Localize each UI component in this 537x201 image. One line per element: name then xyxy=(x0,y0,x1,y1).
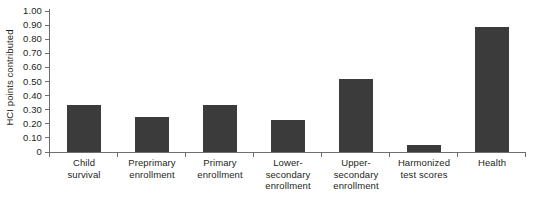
x-axis-category-label: Primaryenrollment xyxy=(186,157,254,180)
x-axis-category-label-line: Child xyxy=(50,157,118,169)
x-axis-category-label-line: Harmonized xyxy=(390,157,458,169)
y-axis-tick-label: 0.10 xyxy=(23,132,42,144)
x-axis-category-label-line: enrollment xyxy=(322,180,390,192)
bar xyxy=(339,79,373,152)
x-axis-category-label: Health xyxy=(458,157,526,169)
x-axis-category-label-line: secondary xyxy=(254,169,322,181)
y-axis-tick-label: 0.20 xyxy=(23,118,42,130)
bar xyxy=(135,117,169,152)
y-axis-tick-label: 0.30 xyxy=(23,104,42,116)
y-axis-tick-label: 0.60 xyxy=(23,61,42,73)
bar xyxy=(67,105,101,152)
x-axis-category-label-line: Preprimary xyxy=(118,157,186,169)
x-axis-line xyxy=(49,152,526,153)
x-axis-category-label-line: enrollment xyxy=(186,169,254,181)
x-axis-category-label: Upper-secondaryenrollment xyxy=(322,157,390,192)
y-axis-tick-label: 0.80 xyxy=(23,33,42,45)
bar xyxy=(407,145,441,152)
x-axis-category-label-line: test scores xyxy=(390,169,458,181)
x-axis-category-label-line: Upper- xyxy=(322,157,390,169)
y-axis-tick-label: 0.40 xyxy=(23,90,42,102)
y-axis-tick-label: 0 xyxy=(37,146,42,158)
y-axis-tick-label: 0.50 xyxy=(23,76,42,88)
x-axis-category-label: Harmonizedtest scores xyxy=(390,157,458,180)
x-axis-labels: ChildsurvivalPreprimaryenrollmentPrimary… xyxy=(50,157,526,201)
x-axis-category-label-line: Primary xyxy=(186,157,254,169)
x-axis-category-label: Lower-secondaryenrollment xyxy=(254,157,322,192)
x-axis-category-label-line: Health xyxy=(458,157,526,169)
y-axis-ticks: 1.000.900.800.700.600.500.400.300.200.10… xyxy=(0,0,49,201)
bar xyxy=(475,27,509,152)
bar xyxy=(271,120,305,152)
bar-chart: HCI points contributed 1.000.900.800.700… xyxy=(0,0,537,201)
bar xyxy=(203,105,237,152)
x-axis-category-label: Preprimaryenrollment xyxy=(118,157,186,180)
x-axis-category-label-line: survival xyxy=(50,169,118,181)
x-axis-category-label-line: Lower- xyxy=(254,157,322,169)
y-axis-tick-label: 0.90 xyxy=(23,19,42,31)
plot-area xyxy=(50,0,526,152)
x-axis-category-label: Childsurvival xyxy=(50,157,118,180)
x-axis-category-label-line: enrollment xyxy=(254,180,322,192)
y-axis-tick-label: 0.70 xyxy=(23,47,42,59)
y-axis-tick-label: 1.00 xyxy=(23,5,42,17)
x-axis-category-label-line: secondary xyxy=(322,169,390,181)
x-axis-category-label-line: enrollment xyxy=(118,169,186,181)
